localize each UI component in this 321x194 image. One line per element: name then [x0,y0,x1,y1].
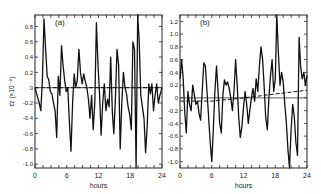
x-tick-label: 6 [65,172,69,179]
y-tick-label: -0.8 [23,146,34,152]
y-tick-label: -0.2 [168,108,179,114]
y-tick-label: -0.4 [168,121,179,127]
y-tick-label: 0 [175,95,179,101]
x-tick-label: 0 [33,172,37,179]
panel-b: 06121824-1.0-0.8-0.6-0.4-0.200.20.40.60.… [168,15,311,189]
x-tick-label: 0 [178,172,182,179]
x-tick-label: 6 [210,172,214,179]
strain-rate-line [35,15,162,168]
y-tick-label: 0.2 [25,70,34,76]
y-tick-label: 1.2 [170,19,179,25]
y-tick-label: 0.8 [170,44,179,50]
panel-label: (b) [200,18,210,27]
x-axis-label: hours [235,182,253,189]
y-tick-label: -0.8 [168,146,179,152]
x-tick-label: 12 [95,172,103,179]
figure: 06121824-1.0-0.8-0.6-0.4-0.200.20.40.60.… [0,0,321,194]
strain-rate-line [180,15,307,168]
y-tick-label: 0.4 [25,54,34,60]
y-tick-label: -1.0 [168,159,179,165]
trend-line [180,90,307,101]
x-tick-label: 24 [303,172,311,179]
y-tick-label: 1.0 [170,31,179,37]
y-tick-label: 0.2 [170,82,179,88]
y-tick-label: 0.8 [25,24,34,30]
plot-frame [35,15,162,168]
y-tick-label: -0.6 [168,133,179,139]
y-tick-label: -0.4 [23,115,34,121]
panel-a: 06121824-1.0-0.8-0.6-0.4-0.200.20.40.60.… [8,15,166,189]
x-tick-label: 18 [126,172,134,179]
x-tick-label: 12 [240,172,248,179]
y-tick-label: 0 [30,85,34,91]
y-axis-label: ε̇z (×10⁻⁸) [8,76,16,106]
panel-label: (a) [55,18,65,27]
y-tick-label: 0.6 [170,57,179,63]
y-tick-label: 0.6 [25,39,34,45]
x-tick-label: 24 [158,172,166,179]
y-tick-label: -0.6 [23,131,34,137]
x-axis-label: hours [90,182,108,189]
x-tick-label: 18 [271,172,279,179]
y-tick-label: 0.4 [170,70,179,76]
y-tick-label: -0.2 [23,100,34,106]
y-tick-label: -1.0 [23,161,34,167]
